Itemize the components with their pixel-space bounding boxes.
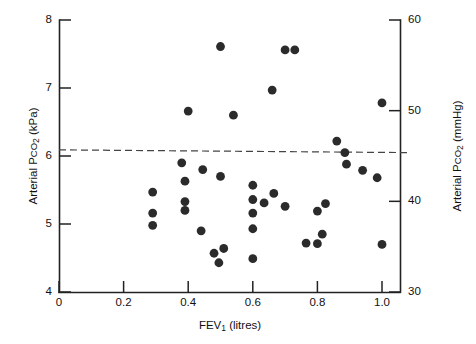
left-axis-title-text: Arterial PCO2 (kPa)	[27, 108, 39, 205]
data-point	[373, 173, 382, 182]
data-point	[269, 189, 278, 198]
data-point	[181, 177, 190, 186]
data-point	[198, 165, 207, 174]
left-tick-label-7: 7	[46, 82, 52, 94]
right-axis	[389, 20, 401, 292]
left-axis-title: Arterial PCO2 (kPa)	[28, 108, 40, 205]
reference-line-path	[59, 150, 408, 153]
data-point	[177, 158, 186, 167]
data-point	[281, 46, 290, 55]
data-point	[342, 160, 351, 169]
data-point	[216, 42, 225, 51]
reference-line	[59, 150, 408, 153]
data-point	[248, 195, 257, 204]
data-point	[229, 111, 238, 120]
data-point	[281, 202, 290, 211]
data-point	[148, 188, 157, 197]
data-point	[268, 86, 277, 95]
left-tick-label-4: 4	[46, 286, 52, 298]
x-tick-label-0: 0	[56, 297, 62, 309]
x-tick-label-0.2: 0.2	[116, 297, 132, 309]
right-tick-label-60: 60	[408, 14, 421, 26]
bottom-axis-ticks	[59, 281, 382, 293]
left-tick-label-5: 5	[46, 218, 52, 230]
left-axis-ticks	[60, 20, 72, 292]
data-point	[302, 239, 311, 248]
data-point	[197, 226, 206, 235]
right-axis-title: Arterial PCO2 (mmHg)	[452, 101, 464, 212]
data-point	[148, 209, 157, 218]
data-point	[260, 199, 269, 208]
data-point	[318, 230, 327, 239]
plot-canvas	[0, 0, 476, 344]
data-point	[210, 249, 219, 258]
x-tick-label-0.8: 0.8	[309, 297, 325, 309]
data-points-group	[148, 42, 386, 267]
right-axis-title-text: Arterial PCO2 (mmHg)	[451, 101, 463, 212]
data-point	[332, 137, 341, 146]
left-tick-label-8: 8	[46, 14, 52, 26]
x-tick-label-0.6: 0.6	[245, 297, 261, 309]
right-tick-label-50: 50	[408, 105, 421, 117]
bottom-axis	[59, 281, 400, 293]
left-axis	[60, 20, 72, 292]
data-point	[290, 46, 299, 55]
data-point	[216, 172, 225, 181]
right-axis-ticks	[389, 20, 401, 292]
data-point	[340, 148, 349, 157]
data-point	[358, 166, 367, 175]
left-tick-label-6: 6	[46, 150, 52, 162]
data-point	[321, 199, 330, 208]
data-point	[248, 181, 257, 190]
data-point	[378, 240, 387, 249]
right-tick-label-30: 30	[408, 286, 421, 298]
right-tick-label-40: 40	[408, 196, 421, 208]
data-point	[181, 206, 190, 215]
data-point	[181, 197, 190, 206]
data-point	[378, 99, 387, 108]
bottom-axis-title: FEV1 (litres)	[199, 320, 261, 332]
data-point	[219, 244, 228, 253]
data-point	[184, 107, 193, 116]
x-tick-label-0.4: 0.4	[180, 297, 196, 309]
data-point	[248, 224, 257, 233]
bottom-axis-title-text: FEV1 (litres)	[199, 319, 261, 331]
data-point	[248, 254, 257, 263]
data-point	[313, 207, 322, 216]
data-point	[148, 221, 157, 230]
x-tick-label-1.0: 1.0	[374, 297, 390, 309]
scatter-plot-figure: 456783040506000.20.40.60.81.0 Arterial P…	[0, 0, 476, 344]
data-point	[248, 209, 257, 218]
data-point	[313, 239, 322, 248]
data-point	[214, 258, 223, 267]
